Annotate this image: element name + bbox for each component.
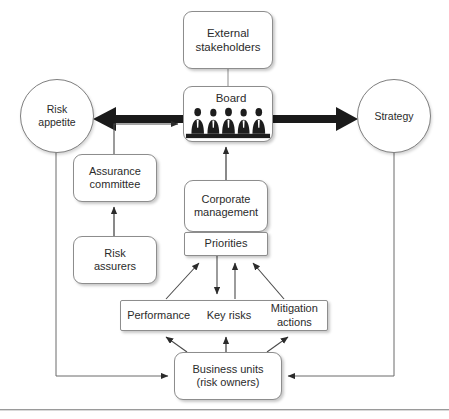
board-members-icon: [184, 105, 272, 141]
diagram-canvas: External stakeholders Board: [0, 0, 449, 419]
link-business-performance: [166, 337, 187, 352]
node-strategy-label: Strategy: [371, 110, 416, 123]
node-assurance-committee-label: Assurance committee: [86, 165, 144, 192]
node-key-risks-label: Key risks: [204, 309, 255, 322]
node-business-units[interactable]: Business units (risk owners): [174, 352, 282, 400]
node-external-stakeholders-label: External stakeholders: [192, 26, 263, 54]
link-mitigation-priorities: [253, 263, 284, 299]
node-performance-keyrisks-mitigation: Performance Key risks Mitigation actions: [120, 300, 328, 331]
link-performance-priorities: [166, 263, 199, 299]
thick-arrow-riskappetite-board: [93, 107, 183, 131]
node-priorities-label: Priorities: [202, 237, 251, 250]
node-mitigation-actions-label: Mitigation actions: [268, 302, 321, 329]
page-edge-rule: [0, 409, 449, 412]
link-business-mitigation: [267, 337, 288, 352]
node-risk-appetite-label: Risk appetite: [35, 103, 78, 129]
node-risk-assurers-label: Risk assurers: [91, 247, 139, 274]
node-assurance-committee[interactable]: Assurance committee: [73, 154, 157, 202]
loop-strategy-business: [288, 152, 394, 376]
node-board-label: Board: [184, 91, 278, 105]
node-risk-assurers[interactable]: Risk assurers: [73, 236, 157, 284]
node-corporate-management[interactable]: Corporate management: [184, 180, 268, 232]
node-priorities[interactable]: Priorities: [184, 232, 268, 256]
node-key-risks[interactable]: Key risks: [196, 301, 261, 330]
node-risk-appetite[interactable]: Risk appetite: [20, 79, 94, 153]
node-performance[interactable]: Performance: [121, 301, 196, 330]
node-business-units-label: Business units (risk owners): [190, 363, 267, 390]
node-mitigation-actions[interactable]: Mitigation actions: [262, 301, 327, 330]
link-assurance-board: [114, 124, 178, 154]
node-board[interactable]: Board: [183, 86, 273, 142]
node-external-stakeholders[interactable]: External stakeholders: [183, 11, 273, 69]
thick-arrow-board-strategy: [273, 107, 358, 131]
node-strategy[interactable]: Strategy: [357, 79, 431, 153]
node-corporate-management-label: Corporate management: [191, 193, 261, 220]
node-performance-label: Performance: [124, 309, 193, 322]
